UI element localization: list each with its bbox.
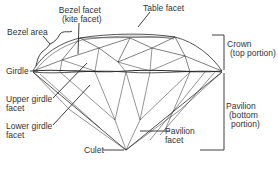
label-culet: Culet [84, 146, 104, 155]
label-bezel-facet: Bezel facet (kite facet) [58, 6, 102, 24]
label-upper-girdle-facet: Upper girdle facet [6, 95, 52, 113]
label-pavilion: Pavilion (bottom portion) [226, 102, 260, 129]
label-crown: Crown (top portion) [227, 40, 276, 58]
label-girdle: Girdle [6, 67, 29, 76]
label-bezel-area: Bezel area [7, 28, 48, 37]
label-table-facet: Table facet [143, 4, 184, 13]
label-lower-girdle-facet: Lower girdle facet [6, 122, 52, 140]
label-pavilion-facet: Pavilion facet [165, 127, 195, 145]
